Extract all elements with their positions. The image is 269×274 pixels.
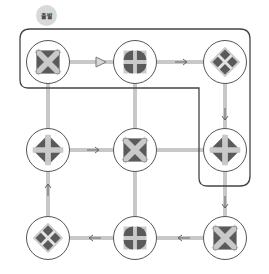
arrow-up-icon [45, 184, 51, 196]
arrow-right-icon [175, 59, 187, 65]
diamond-x-icon [27, 217, 69, 259]
node-r3c3[interactable] [203, 216, 247, 260]
arrow-left-icon [89, 235, 101, 241]
node-r2c2[interactable] [113, 128, 157, 172]
node-r2c1[interactable] [26, 128, 70, 172]
arrow-down-icon [222, 196, 228, 208]
arrow-down-icon [222, 108, 228, 120]
square-plus-icon [114, 217, 156, 259]
square-plus-icon [114, 41, 156, 83]
diamond-plus-icon [27, 129, 69, 171]
square-x-icon [114, 129, 156, 171]
node-r3c1[interactable] [26, 216, 70, 260]
arrow-right-icon [87, 147, 99, 153]
square-x-icon [204, 217, 246, 259]
diamond-x-icon [204, 41, 246, 83]
arrow-right-large-icon [96, 57, 106, 67]
arrow-left-icon [178, 235, 190, 241]
node-r2c3[interactable] [203, 128, 247, 172]
node-r3c2[interactable] [113, 216, 157, 260]
node-r1c2[interactable] [113, 40, 157, 84]
square-x-icon [27, 41, 69, 83]
start-badge: 출발 [36, 5, 57, 26]
diagram: 출발 [0, 0, 269, 274]
node-r1c3[interactable] [203, 40, 247, 84]
diamond-plus-icon [204, 129, 246, 171]
node-r1c1[interactable] [26, 40, 70, 84]
